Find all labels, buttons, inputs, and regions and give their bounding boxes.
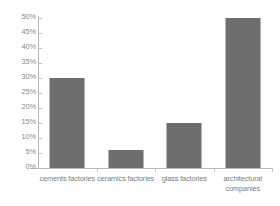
y-axis-tick-label: 45% [22, 27, 37, 36]
x-axis-tick-mark [97, 168, 98, 172]
x-axis-line [30, 168, 273, 169]
y-axis-tick-label: 35% [22, 57, 37, 66]
x-axis-tick-mark [155, 168, 156, 172]
x-axis-category-label: cements factories [38, 174, 97, 184]
x-axis-category-label: architectural companies [214, 174, 273, 193]
y-axis-tick-label: 40% [22, 42, 37, 51]
x-axis-tick-mark [214, 168, 215, 172]
y-axis-tick-mark [38, 168, 42, 169]
bar [167, 123, 202, 168]
y-axis-tick-label: 15% [22, 117, 37, 126]
bar-slot [155, 18, 214, 168]
bar [108, 150, 143, 168]
bar-slot [97, 18, 156, 168]
bar-series [38, 18, 272, 168]
y-axis-tick-label: 25% [22, 87, 37, 96]
y-axis-tick-label: 0% [26, 162, 36, 171]
y-axis-tick-label: 30% [22, 72, 37, 81]
bar-slot [214, 18, 273, 168]
bar-slot [38, 18, 97, 168]
x-axis-category-label: ceramics factories [97, 174, 156, 184]
x-axis-tick-mark [272, 168, 273, 172]
bar-chart: 0%5%10%15%20%25%30%35%40%45%50% cements … [0, 0, 280, 206]
bar [50, 78, 85, 168]
y-axis-tick-label: 10% [22, 132, 37, 141]
y-axis-tick-label: 5% [26, 147, 36, 156]
x-axis-category-label: glass factories [155, 174, 214, 184]
y-axis-tick-label: 50% [22, 12, 37, 21]
y-axis-tick-label: 20% [22, 102, 37, 111]
bar [225, 18, 260, 168]
